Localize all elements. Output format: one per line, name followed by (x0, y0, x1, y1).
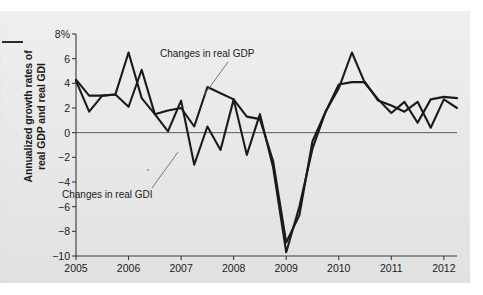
scan-speck (147, 169, 149, 171)
leader-line-gdi (152, 152, 178, 188)
series-line-gdp (76, 70, 457, 243)
series-line-gdi (76, 53, 457, 253)
chart-container: Annualized growth rates of real GDP and … (0, 0, 483, 295)
chart-plot-area (0, 0, 483, 295)
figure-page: Annualized growth rates of real GDP and … (0, 0, 483, 295)
